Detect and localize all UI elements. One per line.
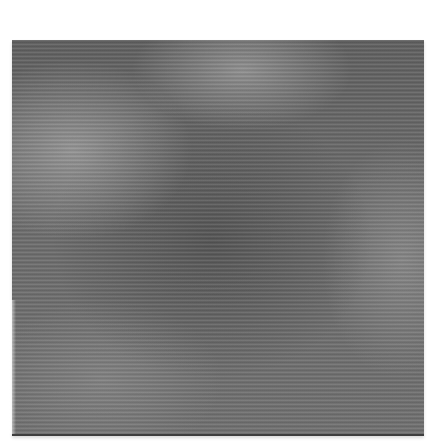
image-canvas: Grayscale photograph of a square swatch …: [0, 0, 441, 443]
texture-swatch: [12, 40, 424, 436]
frayed-edge: [8, 300, 16, 434]
